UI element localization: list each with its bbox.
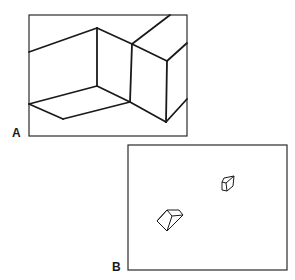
panel-b-frame — [128, 145, 287, 270]
cube-small — [222, 176, 234, 191]
figure-canvas — [0, 0, 295, 280]
panel-b-label: B — [112, 261, 121, 273]
panel-a-label: A — [12, 127, 21, 139]
panel-b — [128, 145, 287, 270]
cube-large — [157, 210, 183, 231]
panel-a — [29, 15, 187, 136]
panel-a-box-lines — [29, 15, 187, 122]
